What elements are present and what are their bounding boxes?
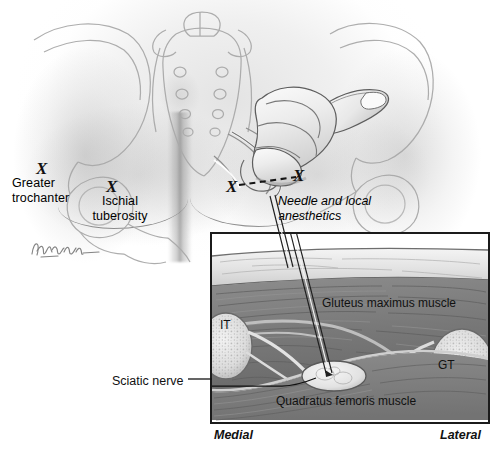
sciatic-nerve-leader-line bbox=[0, 0, 501, 458]
quadratus-femoris-label: Quadratus femoris muscle bbox=[276, 394, 416, 408]
ischial-tuberosity-abbr-label: IT bbox=[220, 318, 231, 332]
gluteus-maximus-label: Gluteus maximus muscle bbox=[322, 296, 456, 310]
greater-trochanter-abbr-label: GT bbox=[438, 358, 455, 372]
sciatic-nerve-label: Sciatic nerve bbox=[112, 374, 184, 388]
sciatic-nerve-block-illustration: X X X X Greater trochanter Ischial tuber… bbox=[0, 0, 501, 458]
orientation-lateral-label: Lateral bbox=[440, 428, 481, 442]
orientation-medial-label: Medial bbox=[214, 428, 253, 442]
